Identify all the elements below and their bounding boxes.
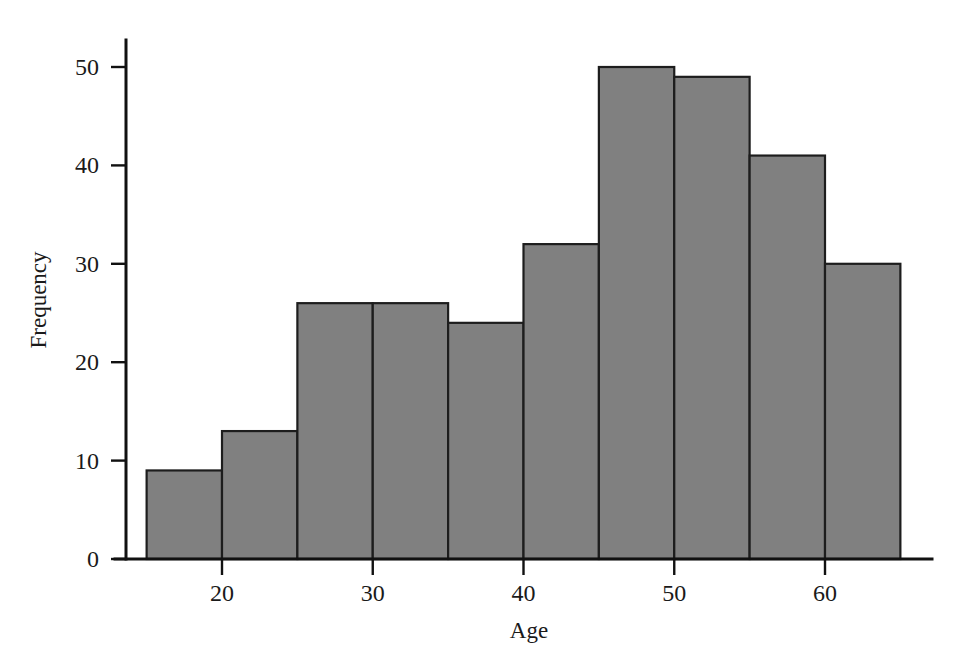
bars-group	[147, 67, 901, 559]
y-tick-label: 50	[75, 54, 99, 80]
histogram-bar	[147, 470, 222, 559]
y-tick-label: 0	[87, 546, 99, 572]
histogram-bar	[297, 303, 372, 559]
y-axis-ticks: 01020304050	[75, 54, 126, 572]
histogram-bar	[373, 303, 448, 559]
y-tick-label: 40	[75, 152, 99, 178]
x-tick-label: 40	[512, 580, 536, 606]
histogram-bar	[825, 264, 900, 559]
y-tick-label: 20	[75, 349, 99, 375]
y-tick-label: 30	[75, 251, 99, 277]
y-tick-label: 10	[75, 448, 99, 474]
histogram-bar	[524, 244, 599, 559]
histogram-bar	[222, 431, 297, 559]
histogram-chart: 01020304050 2030405060 Age Frequency	[0, 0, 975, 659]
histogram-bar	[674, 77, 749, 559]
x-axis-title: Age	[510, 618, 548, 643]
x-axis-ticks: 2030405060	[210, 559, 837, 606]
histogram-bar	[448, 323, 523, 559]
x-tick-label: 50	[662, 580, 686, 606]
x-tick-label: 20	[210, 580, 234, 606]
y-axis-title: Frequency	[26, 251, 51, 349]
histogram-figure: 01020304050 2030405060 Age Frequency	[0, 0, 975, 659]
histogram-bar	[599, 67, 674, 559]
histogram-bar	[750, 156, 825, 559]
x-tick-label: 30	[361, 580, 385, 606]
x-tick-label: 60	[813, 580, 837, 606]
